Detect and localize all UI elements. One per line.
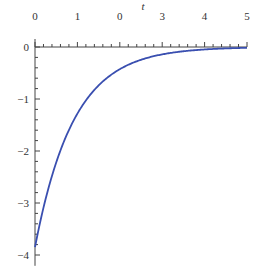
- y-tick-label: −1: [17, 93, 29, 105]
- y-tick-label: −2: [17, 145, 29, 157]
- y-tick-label: −3: [17, 197, 29, 209]
- y-tick-label: 0: [24, 41, 30, 53]
- x-tick-label: 1: [75, 10, 81, 22]
- x-axis-title: t: [141, 0, 145, 12]
- x-tick-label: 4: [202, 10, 208, 22]
- line-chart: 010345 0−1−2−3−4 t: [0, 0, 261, 276]
- x-tick-label: 3: [159, 10, 165, 22]
- x-tick-label: 0: [32, 10, 38, 22]
- x-tick-label: 5: [244, 10, 250, 22]
- y-tick-labels: 0−1−2−3−4: [17, 41, 29, 261]
- x-tick-label: 0: [117, 10, 123, 22]
- y-tick-label: −4: [17, 249, 29, 261]
- data-series-curve: [35, 48, 247, 247]
- minor-ticks: [35, 42, 247, 255]
